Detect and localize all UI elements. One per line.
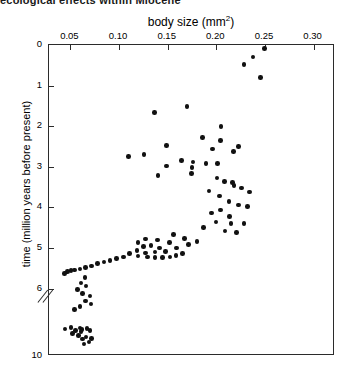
y-tick xyxy=(49,289,54,290)
data-point xyxy=(153,250,158,255)
data-point xyxy=(167,240,172,245)
x-tick-label: 0.15 xyxy=(147,30,187,41)
data-point xyxy=(201,225,206,230)
x-axis-title: body size (mm2) xyxy=(48,14,334,29)
data-point xyxy=(135,248,140,253)
data-point xyxy=(251,55,256,60)
data-point xyxy=(78,267,83,272)
data-point xyxy=(80,291,85,296)
data-point xyxy=(217,194,222,199)
data-point xyxy=(152,110,157,115)
data-point xyxy=(231,149,236,154)
data-point xyxy=(63,327,68,332)
x-axis-title-base: body size (mm xyxy=(148,15,226,29)
data-point xyxy=(153,255,158,260)
data-point xyxy=(182,236,187,241)
data-point xyxy=(82,342,87,347)
y-tick xyxy=(49,207,54,208)
data-point xyxy=(218,138,223,143)
x-tick xyxy=(168,45,169,50)
x-tick-label: 0.20 xyxy=(195,30,235,41)
y-tick-label: 1 xyxy=(16,79,42,90)
data-point xyxy=(145,255,150,260)
data-point xyxy=(180,251,185,256)
data-point xyxy=(102,260,107,265)
data-point xyxy=(214,220,219,225)
data-point xyxy=(229,221,234,226)
data-point xyxy=(155,238,160,243)
data-point xyxy=(114,256,119,261)
data-point xyxy=(83,299,88,304)
data-point xyxy=(171,232,176,237)
data-point xyxy=(75,287,80,292)
data-point xyxy=(141,244,146,249)
data-point xyxy=(195,239,200,244)
data-point xyxy=(234,230,239,235)
data-point xyxy=(190,165,195,170)
y-tick-label: 4 xyxy=(16,200,42,211)
data-point xyxy=(160,255,165,260)
x-tick xyxy=(70,45,71,50)
y-tick-label: 2 xyxy=(16,119,42,130)
data-point xyxy=(218,208,223,213)
data-point xyxy=(207,189,212,194)
data-point xyxy=(222,179,227,184)
x-tick-label: 0.25 xyxy=(244,30,284,41)
data-point xyxy=(95,261,100,266)
data-point xyxy=(223,229,228,234)
data-point xyxy=(204,161,209,166)
y-axis-title: time (million years before present) xyxy=(20,84,32,284)
y-tick-label: 0 xyxy=(16,38,42,49)
y-tick-label: 6 xyxy=(16,282,42,293)
x-tick-label: 0.30 xyxy=(293,30,333,41)
data-point xyxy=(157,246,162,251)
data-point xyxy=(245,204,250,209)
data-point xyxy=(200,135,205,140)
data-point xyxy=(126,154,131,159)
y-tick xyxy=(49,167,54,168)
data-point xyxy=(168,255,173,260)
data-point xyxy=(70,331,75,336)
data-point xyxy=(89,302,94,307)
data-point xyxy=(185,104,190,109)
data-point xyxy=(89,264,94,269)
data-point xyxy=(209,211,214,216)
data-point xyxy=(215,161,220,166)
data-point xyxy=(174,253,179,258)
data-point xyxy=(88,328,93,333)
data-point xyxy=(242,221,247,226)
x-axis-title-close: ) xyxy=(230,15,234,29)
data-point xyxy=(215,176,220,181)
y-tick-label: 5 xyxy=(16,241,42,252)
y-tick xyxy=(49,248,54,249)
data-point xyxy=(189,171,194,176)
data-point xyxy=(232,183,237,188)
clipped-page-heading: ecological effects within Miocene xyxy=(0,0,260,6)
data-point xyxy=(236,144,241,149)
data-point xyxy=(136,254,141,259)
data-point xyxy=(258,75,263,80)
data-point xyxy=(83,265,88,270)
x-tick xyxy=(119,45,120,50)
x-tick-label: 0.10 xyxy=(98,30,138,41)
y-tick-label: 10 xyxy=(16,349,42,360)
data-point xyxy=(79,281,84,286)
data-point xyxy=(84,284,89,289)
data-point xyxy=(227,199,232,204)
data-point xyxy=(186,242,191,247)
data-point xyxy=(164,143,169,148)
data-point xyxy=(156,173,161,178)
data-point xyxy=(136,240,141,245)
x-tick-label: 0.05 xyxy=(49,30,89,41)
data-point xyxy=(262,46,267,51)
x-tick xyxy=(314,45,315,50)
data-point xyxy=(121,255,126,260)
data-point xyxy=(78,304,83,309)
data-point xyxy=(80,337,85,342)
data-point xyxy=(88,294,93,299)
data-point xyxy=(227,214,232,219)
data-point xyxy=(210,147,215,152)
data-point xyxy=(179,158,184,163)
plot-area xyxy=(48,44,334,355)
data-point xyxy=(163,249,168,254)
